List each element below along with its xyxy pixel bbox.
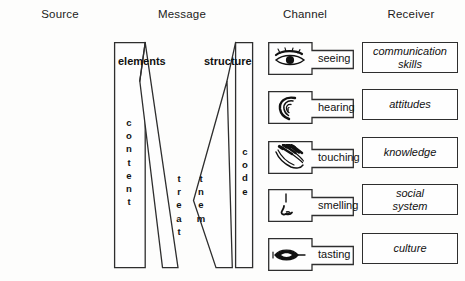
channel-item-hearing: hearing [268,91,354,124]
receiver-box-culture: culture [362,233,458,264]
channel-label-touching: touching [318,151,360,163]
nose-icon [275,193,305,219]
receiver-box-communication-skills: communication skills [362,42,458,73]
channel-item-tasting: tasting [268,238,354,271]
receiver-box-knowledge: knowledge [362,137,458,168]
message-label-elements: elements [118,55,166,67]
source-text-line: attitudes [37,98,79,111]
column-header-message: Message [142,8,222,20]
message-vertical-word-treat: t r e a t [172,172,186,238]
vstack-letter: e [120,169,138,182]
source-box-culture: culture [9,233,107,264]
source-box-attitudes: attitudes [9,89,107,120]
vstack-letter: e [172,198,186,211]
source-text-line: skills [21,58,95,71]
vstack-letter: o [120,129,138,142]
source-box-knowledge: knowledge [9,137,107,168]
vstack-letter: a [172,212,186,225]
vstack-letter: e [238,185,252,198]
column-header-channel: Channel [265,8,345,20]
vstack-letter: n [194,185,208,198]
receiver-box-social-system: social system [362,184,458,215]
channel-label-seeing: seeing [318,52,350,64]
ear-icon [276,95,302,121]
channel-item-touching: touching [268,141,354,174]
vstack-letter: c [238,145,252,158]
vstack-letter: t [120,156,138,169]
receiver-box-attitudes: attitudes [362,89,458,120]
column-header-receiver: Receiver [371,8,451,20]
vstack-letter: e [194,198,208,211]
message-vertical-word-content: c o n t e n t [120,116,138,208]
vstack-letter: c [120,116,138,129]
receiver-text-line: communication [373,45,447,58]
hand-icon [272,144,306,170]
smcr-diagram: Source Message Channel Receiver communic… [0,0,465,281]
channel-label-tasting: tasting [318,248,350,260]
channel-label-hearing: hearing [318,101,355,113]
receiver-text-line: skills [373,58,447,71]
vstack-letter: t [172,225,186,238]
channel-item-seeing: seeing [268,42,354,75]
vstack-letter: r [172,185,186,198]
channel-item-smelling: smelling [268,189,354,222]
message-vertical-word-ment: t n e m [194,172,208,225]
receiver-text-line: social [393,187,428,200]
eye-icon [273,47,307,71]
source-text-line: social [41,187,76,200]
vstack-letter: t [172,172,186,185]
vstack-letter: d [238,171,252,184]
source-text-line: knowledge [32,146,85,159]
receiver-text-line: system [393,200,428,213]
message-label-structure: structure [204,55,252,67]
receiver-text-line: knowledge [384,146,437,159]
vstack-letter: o [238,158,252,171]
source-text-line: system [41,200,76,213]
receiver-text-line: culture [393,242,426,255]
vstack-letter: m [194,212,208,225]
vstack-letter: t [194,172,208,185]
receiver-text-line: attitudes [389,98,431,111]
source-text-line: culture [41,242,74,255]
source-box-social-system: social system [9,184,107,215]
message-vertical-word-code: c o d e [238,145,252,198]
vstack-letter: n [120,142,138,155]
source-box-communication-skills: communication skills [9,42,107,73]
channel-label-smelling: smelling [318,199,358,211]
source-text-line: communication [21,45,95,58]
tongue-icon [271,245,307,265]
vstack-letter: n [120,182,138,195]
column-header-source: Source [20,8,100,20]
vstack-letter: t [120,195,138,208]
